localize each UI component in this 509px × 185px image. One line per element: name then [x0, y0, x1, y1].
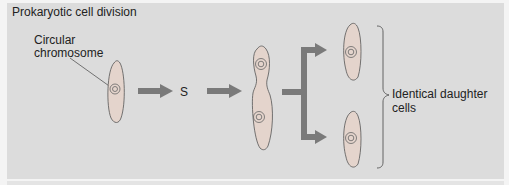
daughter-cell-top	[344, 23, 361, 80]
arrow-1	[138, 84, 173, 98]
diagram-graphics	[0, 0, 509, 185]
chromosome-pointer-line	[70, 58, 112, 88]
parent-cell	[108, 61, 124, 123]
branch-arrow	[282, 43, 327, 144]
dividing-cell	[252, 46, 272, 150]
curly-brace	[377, 26, 389, 168]
arrow-2	[207, 84, 242, 98]
daughter-cell-bottom	[344, 111, 361, 167]
